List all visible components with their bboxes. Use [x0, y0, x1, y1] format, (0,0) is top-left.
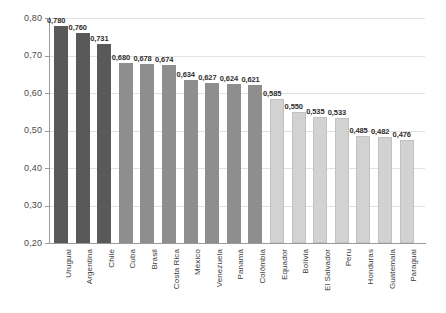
x-axis-label: Honduras — [367, 249, 375, 285]
x-axis-label: Paraguai — [410, 249, 418, 282]
bar[interactable] — [54, 26, 68, 244]
bar-value-label: 0,680 — [112, 54, 130, 62]
bar-value-label: 0,627 — [198, 74, 216, 82]
y-tick-mark — [45, 56, 49, 57]
x-axis-label: Cuba — [129, 249, 137, 269]
bar[interactable] — [335, 118, 349, 243]
bar[interactable] — [400, 140, 414, 244]
x-axis-label: Bolívia — [302, 249, 310, 274]
x-axis-label: Guatemala — [389, 249, 397, 289]
bar-value-label: 0,624 — [220, 75, 238, 83]
bar-value-label: 0,485 — [349, 127, 367, 135]
bar-chart: 0,7800,7600,7310,6800,6780,6740,6340,627… — [0, 0, 446, 313]
y-tick-mark — [45, 18, 49, 19]
x-axis-label: Colômbia — [259, 249, 267, 284]
y-tick-mark — [45, 93, 49, 94]
x-axis-label: Venezuela — [216, 249, 224, 287]
y-tick-mark — [45, 206, 49, 207]
x-axis-label: El Salvador — [324, 249, 332, 291]
bar[interactable] — [184, 80, 198, 243]
gridline — [50, 18, 425, 19]
y-tick-label: 0,70 — [0, 51, 42, 60]
x-axis-label: Peru — [345, 249, 353, 266]
bar[interactable] — [378, 137, 392, 243]
x-axis-label: México — [194, 249, 202, 275]
bar-value-label: 0,482 — [371, 128, 389, 136]
bar-value-label: 0,535 — [306, 108, 324, 116]
y-tick-mark — [45, 131, 49, 132]
bar[interactable] — [205, 83, 219, 243]
bar[interactable] — [162, 65, 176, 243]
y-tick-label: 0,30 — [0, 201, 42, 210]
y-tick-mark — [45, 243, 49, 244]
bar-value-label: 0,731 — [90, 35, 108, 43]
bar[interactable] — [140, 64, 154, 243]
y-tick-label: 0,60 — [0, 89, 42, 98]
y-tick-label: 0,40 — [0, 164, 42, 173]
bar[interactable] — [76, 33, 90, 243]
bar[interactable] — [97, 44, 111, 243]
bar-value-label: 0,678 — [133, 55, 151, 63]
bar[interactable] — [356, 136, 370, 243]
x-axis-label: Panamá — [237, 249, 245, 279]
bar-value-label: 0,533 — [328, 109, 346, 117]
y-tick-mark — [45, 168, 49, 169]
x-axis-label: Chile — [108, 249, 116, 268]
bar-value-label: 0,621 — [241, 76, 259, 84]
y-tick-label: 0,80 — [0, 14, 42, 23]
x-axis-label: Equador — [281, 249, 289, 280]
bar[interactable] — [292, 112, 306, 243]
x-axis-label: Argentina — [86, 249, 94, 284]
bar[interactable] — [270, 99, 284, 243]
bar-value-label: 0,634 — [177, 71, 195, 79]
y-tick-label: 0,20 — [0, 239, 42, 248]
y-tick-label: 0,50 — [0, 126, 42, 135]
bar-value-label: 0,476 — [393, 131, 411, 139]
bar[interactable] — [248, 85, 262, 243]
bar[interactable] — [313, 117, 327, 243]
x-axis-label: Uruguai — [65, 249, 73, 278]
bar-value-label: 0,760 — [69, 24, 87, 32]
bar[interactable] — [227, 84, 241, 243]
bar[interactable] — [119, 63, 133, 243]
bar-value-label: 0,550 — [285, 103, 303, 111]
x-axis-line — [49, 243, 426, 244]
x-axis-label: Brasil — [151, 249, 159, 270]
bar-value-label: 0,780 — [47, 17, 65, 25]
bar-value-label: 0,585 — [263, 90, 281, 98]
plot-area: 0,7800,7600,7310,6800,6780,6740,6340,627… — [50, 18, 425, 243]
bar-value-label: 0,674 — [155, 56, 173, 64]
x-axis-label: Costa Rica — [173, 249, 181, 289]
